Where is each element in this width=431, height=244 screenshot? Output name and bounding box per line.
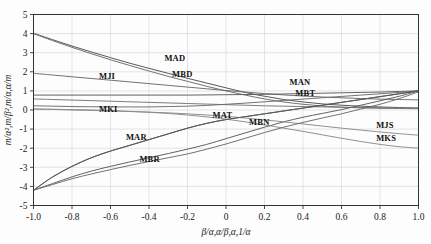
curve-label-mbd: MBD	[172, 69, 192, 79]
x-tick-label: 0	[224, 212, 229, 222]
y-tick-label: -4	[20, 182, 28, 192]
y-tick-label: -1	[20, 124, 28, 134]
curve-label-mbr: MBR	[139, 154, 160, 164]
y-tick-label: 5	[23, 10, 28, 20]
chart-figure: -1.0-0.8-0.6-0.4-0.200.20.40.60.81.0 -5-…	[0, 0, 431, 244]
y-tick-label: -3	[20, 163, 28, 173]
x-tick-label: -0.4	[141, 212, 156, 222]
curve-label-mbn: MBN	[249, 117, 270, 127]
x-tick-label: 0.2	[259, 212, 271, 222]
y-tick-label: -5	[20, 201, 28, 211]
curve-label-mks: MKS	[376, 133, 396, 143]
y-tick-label: 1	[23, 86, 28, 96]
x-tick-label: -0.8	[64, 212, 79, 222]
x-tick-label: 0.4	[297, 212, 309, 222]
y-tick-label: -2	[20, 144, 28, 154]
y-axis-label: m/α²,m/β²,m/α,α/m	[3, 75, 13, 146]
curve-label-mar: MAR	[126, 132, 148, 142]
y-tick-label: 4	[23, 29, 28, 39]
curve-label-mjs: MJS	[376, 120, 394, 130]
x-tick-label: 0.8	[374, 212, 386, 222]
curve-label-mat: MAT	[213, 110, 233, 120]
x-tick-label: 1.0	[413, 212, 425, 222]
figure-background	[0, 0, 431, 244]
y-tick-label: 2	[23, 67, 28, 77]
curve-label-mki: MKI	[99, 104, 118, 114]
curve-label-man: MAN	[290, 77, 312, 87]
y-tick-label: 3	[23, 48, 28, 58]
x-axis-label: β/α,α/β,α,1/α	[200, 227, 251, 237]
x-tick-label: -1.0	[26, 212, 41, 222]
x-tick-label: -0.2	[180, 212, 195, 222]
x-tick-label: -0.6	[103, 212, 118, 222]
curve-label-mji: MJI	[99, 71, 116, 81]
line-chart: -1.0-0.8-0.6-0.4-0.200.20.40.60.81.0 -5-…	[0, 0, 431, 244]
y-tick-label: 0	[23, 105, 28, 115]
curve-label-mad: MAD	[164, 53, 185, 63]
x-tick-label: 0.6	[336, 212, 348, 222]
curve-label-mbt: MBT	[295, 88, 315, 98]
